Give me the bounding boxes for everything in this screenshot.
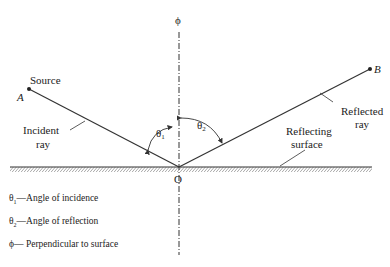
legend-item-perpendicular: ϕ— Perpendicular to surface (9, 235, 118, 254)
point-b-dot (368, 67, 372, 71)
reflected-label-2: ray (355, 118, 370, 130)
theta2-label: θ2 (197, 119, 206, 133)
origin-label: O (174, 173, 182, 185)
reflected-leader (320, 93, 333, 102)
source-label: Source (30, 74, 61, 86)
incident-leader (70, 121, 85, 130)
legend-item-reflection: θ2—Angle of reflection (9, 212, 118, 235)
reflected-ray (179, 69, 370, 167)
surface-label-2: surface (291, 138, 323, 150)
legend: θ1—Angle of incidence θ2—Angle of reflec… (9, 189, 118, 254)
reflecting-surface-hatch (10, 167, 372, 172)
incident-label-1: Incident (23, 124, 59, 136)
normal-symbol: ϕ (175, 14, 181, 26)
reflected-label-1: Reflected (341, 105, 384, 117)
point-a-label: A (16, 91, 24, 103)
surface-label-1: Reflecting (286, 125, 332, 137)
legend-item-incidence: θ1—Angle of incidence (9, 189, 118, 212)
point-b-label: B (374, 63, 381, 75)
surface-leader (280, 150, 305, 166)
point-a-dot (27, 87, 31, 91)
incident-label-2: ray (36, 138, 51, 150)
